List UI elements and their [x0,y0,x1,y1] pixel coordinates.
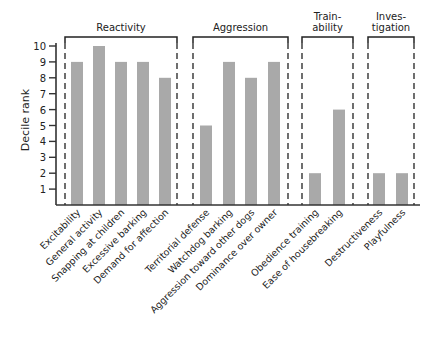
bar [245,78,257,205]
x-axis-labels: ExcitabilityGeneral activitySnapping at … [38,206,408,315]
group-label: Aggression [213,22,268,33]
group-bracket [193,37,288,43]
y-tick-label: 8 [40,73,46,84]
bars [71,46,408,205]
group-label: Train- [313,11,342,22]
y-tick-label: 1 [40,184,46,195]
group-bracket [65,37,177,43]
group-label: Inves- [376,11,407,22]
y-tick-label: 9 [40,57,46,68]
y-tick-label: 5 [40,121,46,132]
bar [268,62,280,205]
bar [333,110,345,205]
bar [200,126,212,206]
bar [396,173,408,205]
bar [93,46,105,205]
bar [373,173,385,205]
bar [223,62,235,205]
y-tick-label: 10 [33,41,46,52]
bar [137,62,149,205]
group-label: Reactivity [96,22,146,33]
y-tick-label: 3 [40,152,46,163]
bar [309,173,321,205]
y-tick-label: 2 [40,168,46,179]
bar [115,62,127,205]
group-bracket [302,37,353,43]
y-tick-label: 7 [40,89,46,100]
decile-rank-bar-chart: 12345678910 ReactivityAggressionTrain-ab… [0,0,440,338]
y-axis: 12345678910 [33,41,56,205]
group-bracket [368,37,414,43]
y-tick-label: 6 [40,105,46,116]
y-axis-label: Decile rank [19,88,32,151]
group-label: ability [312,22,343,33]
y-tick-label: 4 [40,136,46,147]
group-label: tigation [372,22,410,33]
bar [71,62,83,205]
bar [159,78,171,205]
